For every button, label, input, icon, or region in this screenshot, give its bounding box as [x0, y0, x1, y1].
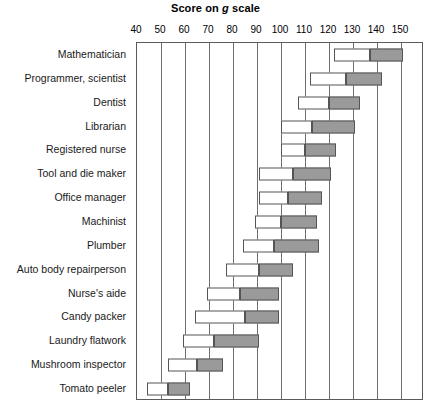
bar-segment-low: [281, 144, 305, 157]
category-label: Programmer, scientist: [24, 72, 126, 84]
bar-segment-low: [255, 216, 281, 229]
bar-segment-low: [243, 239, 274, 252]
x-tick-label-90: 90: [250, 24, 261, 35]
bar-segment-high: [214, 335, 260, 348]
bar-row: [334, 48, 404, 61]
category-label: Auto body repairperson: [17, 263, 126, 275]
chart-title-part-1: Score on: [171, 2, 222, 14]
bar-segment-low: [147, 383, 169, 396]
chart-container: Score on g scale 40506070809010011012013…: [0, 0, 431, 411]
bar-segment-high: [281, 216, 317, 229]
bar-row: [195, 311, 279, 324]
chart-title: Score on g scale: [0, 2, 431, 14]
bar-segment-high: [346, 72, 382, 85]
bar-row: [226, 263, 293, 276]
category-label: Office manager: [54, 191, 126, 203]
y-axis-category-labels: MathematicianProgrammer, scientistDentis…: [0, 42, 132, 400]
bar-segment-high: [274, 239, 320, 252]
bar-segment-low: [259, 168, 293, 181]
x-tick-label-100: 100: [272, 24, 289, 35]
category-label: Plumber: [87, 239, 126, 251]
category-label: Laundry flatwork: [49, 334, 126, 346]
category-label: Dentist: [93, 96, 126, 108]
bar-segment-high: [245, 311, 279, 324]
bar-segment-low: [334, 48, 370, 61]
bar-segment-low: [195, 311, 245, 324]
bar-segment-high: [288, 192, 322, 205]
category-label: Librarian: [85, 120, 126, 132]
bar-row: [298, 96, 360, 109]
chart-title-part-2: scale: [229, 2, 260, 14]
bar-segment-high: [168, 383, 190, 396]
category-label: Tool and die maker: [37, 167, 126, 179]
category-label: Nurse's aide: [68, 287, 126, 299]
category-label: Registered nurse: [46, 143, 126, 155]
category-label: Mushroom inspector: [31, 358, 126, 370]
bar-row: [207, 287, 279, 300]
bar-row: [281, 144, 336, 157]
bar-segment-low: [310, 72, 346, 85]
bar-segment-high: [259, 263, 293, 276]
bar-row: [168, 359, 223, 372]
x-tick-label-150: 150: [392, 24, 409, 35]
bar-row: [255, 216, 317, 229]
x-tick-label-50: 50: [154, 24, 165, 35]
bar-row: [147, 383, 190, 396]
bar-segment-low: [259, 192, 288, 205]
bar-segment-low: [298, 96, 329, 109]
bars-layer: [137, 43, 422, 399]
x-axis-tick-labels: 405060708090100110120130140150: [0, 24, 431, 38]
bar-segment-high: [370, 48, 404, 61]
plot-area: [136, 42, 423, 400]
bar-segment-high: [305, 144, 336, 157]
x-tick-label-60: 60: [178, 24, 189, 35]
bar-row: [183, 335, 260, 348]
bar-row: [281, 120, 355, 133]
chart-title-variable-g: g: [222, 2, 229, 14]
bar-segment-low: [281, 120, 312, 133]
x-tick-label-120: 120: [320, 24, 337, 35]
bar-segment-high: [197, 359, 223, 372]
category-label: Mathematician: [58, 48, 126, 60]
category-label: Tomato peeler: [59, 382, 126, 394]
x-tick-label-70: 70: [202, 24, 213, 35]
x-tick-label-80: 80: [226, 24, 237, 35]
bar-segment-high: [240, 287, 278, 300]
x-tick-label-110: 110: [296, 24, 312, 35]
bar-segment-high: [293, 168, 331, 181]
bar-row: [310, 72, 382, 85]
bar-row: [243, 239, 320, 252]
category-label: Candy packer: [61, 310, 126, 322]
category-label: Machinist: [82, 215, 126, 227]
bar-segment-low: [183, 335, 214, 348]
bar-segment-high: [312, 120, 355, 133]
bar-segment-low: [168, 359, 197, 372]
bar-segment-low: [226, 263, 260, 276]
bar-row: [259, 168, 331, 181]
bar-segment-high: [329, 96, 360, 109]
x-tick-label-130: 130: [344, 24, 361, 35]
x-tick-label-40: 40: [130, 24, 141, 35]
bar-segment-low: [207, 287, 241, 300]
bar-row: [259, 192, 321, 205]
x-tick-label-140: 140: [368, 24, 385, 35]
